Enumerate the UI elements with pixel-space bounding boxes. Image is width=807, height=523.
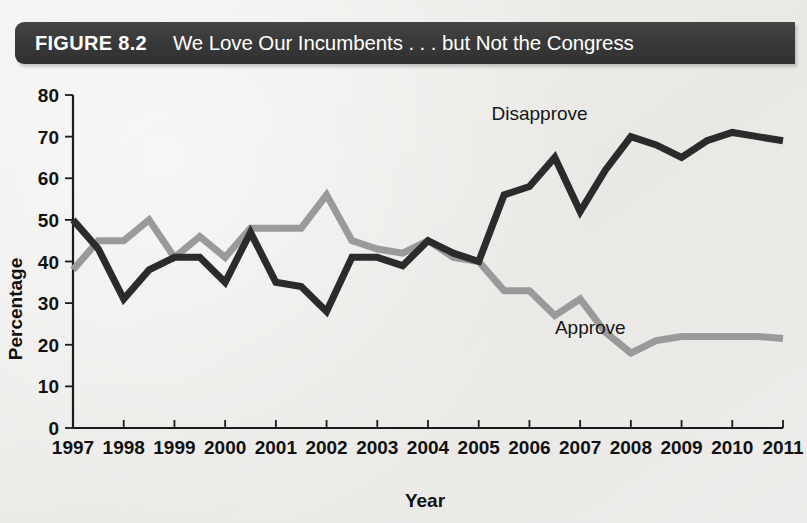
approve-annotation-label: Approve	[555, 317, 626, 338]
x-tick-label: 2010	[711, 437, 753, 458]
y-tick-label: 10	[38, 376, 59, 397]
figure-root: FIGURE 8.2 We Love Our Incumbents . . . …	[0, 0, 807, 523]
x-tick-label: 2008	[610, 437, 652, 458]
x-tick-label: 1999	[153, 437, 195, 458]
approve-series-line	[73, 195, 783, 353]
y-tick-label: 0	[48, 418, 59, 439]
x-tick-label: 2005	[458, 437, 501, 458]
x-tick-label: 2003	[356, 437, 398, 458]
x-tick-label: 1997	[52, 437, 94, 458]
disapprove-series-line	[73, 132, 783, 311]
figure-title-text: We Love Our Incumbents . . . but Not the…	[173, 31, 634, 55]
y-tick-label: 80	[38, 85, 59, 106]
y-tick-label: 40	[38, 252, 59, 273]
y-tick-label: 60	[38, 168, 59, 189]
chart-plot-area: 01020304050607080 1997199819992000200120…	[0, 64, 807, 523]
x-tick-label: 2009	[660, 437, 702, 458]
y-tick-label: 30	[38, 293, 59, 314]
x-tick-label: 1998	[103, 437, 145, 458]
y-axis-tick-marks	[65, 95, 73, 428]
x-tick-label: 2011	[762, 437, 804, 458]
x-tick-label: 2001	[255, 437, 298, 458]
y-axis-title: Percentage	[5, 258, 26, 360]
y-tick-label: 70	[38, 127, 59, 148]
x-tick-label: 2007	[559, 437, 601, 458]
figure-number-label: FIGURE 8.2	[35, 32, 147, 55]
x-tick-label: 2006	[508, 437, 550, 458]
x-tick-label: 2002	[305, 437, 347, 458]
x-axis-tick-labels: 1997199819992000200120022003200420052006…	[52, 437, 804, 458]
x-axis-title: Year	[405, 490, 446, 511]
x-tick-label: 2000	[204, 437, 246, 458]
y-tick-label: 20	[38, 335, 59, 356]
y-axis-tick-labels: 01020304050607080	[38, 85, 59, 439]
figure-title-banner: FIGURE 8.2 We Love Our Incumbents . . . …	[15, 22, 795, 64]
x-axis-tick-marks	[73, 420, 783, 428]
x-tick-label: 2004	[407, 437, 450, 458]
y-tick-label: 50	[38, 210, 59, 231]
disapprove-annotation-label: Disapprove	[492, 103, 588, 124]
line-chart-svg: 01020304050607080 1997199819992000200120…	[0, 64, 807, 523]
